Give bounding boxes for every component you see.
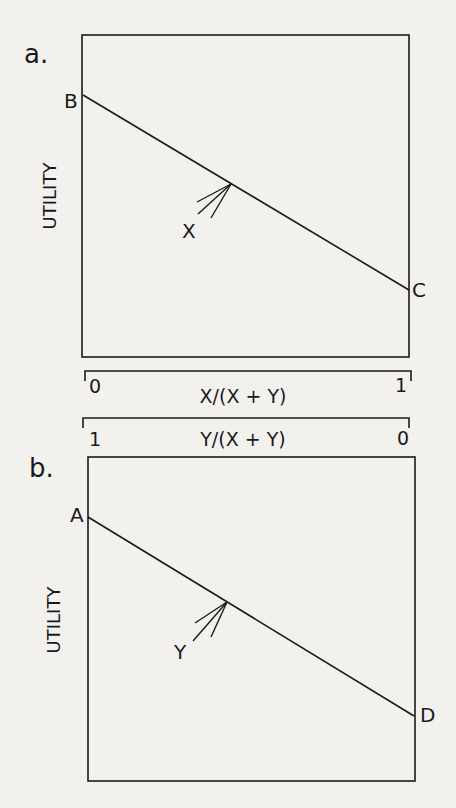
panel-a-frame (82, 35, 409, 357)
panel-a-point-b: B (64, 89, 78, 113)
axis-y-share: 1 0 Y/(X + Y) (83, 418, 409, 450)
panel-a-letter: a. (24, 39, 48, 69)
utility-diagram: a. UTILITY B C X 0 1 X/(X + Y) 1 (0, 0, 456, 808)
panel-b-point-a: A (70, 503, 84, 527)
panel-a-ylabel: UTILITY (39, 162, 60, 230)
axis-y-share-bracket (83, 418, 409, 428)
panel-b-arrow-label: Y (173, 640, 187, 664)
panel-b-letter: b. (29, 453, 54, 483)
panel-a-arrow-label: X (182, 219, 196, 243)
axis-x-share-bracket (85, 371, 411, 381)
panel-b: b. UTILITY A D Y (29, 453, 435, 781)
axis-x-share-label: X/(X + Y) (200, 385, 287, 407)
axis-y-share-left-tick: 1 (89, 428, 101, 450)
panel-a-point-c: C (412, 278, 426, 302)
panel-a-arrow-icon (197, 184, 231, 218)
panel-b-frame (88, 457, 415, 781)
panel-b-utility-line (88, 517, 414, 716)
axis-y-share-label: Y/(X + Y) (199, 428, 285, 450)
panel-b-point-d: D (420, 703, 435, 727)
axis-x-share-left-tick: 0 (89, 375, 101, 397)
panel-b-arrow-icon (193, 602, 227, 641)
panel-b-ylabel: UTILITY (43, 586, 64, 654)
axis-x-share-right-tick: 1 (395, 374, 407, 396)
axis-y-share-right-tick: 0 (397, 427, 409, 449)
figure-canvas: a. UTILITY B C X 0 1 X/(X + Y) 1 (0, 0, 456, 808)
panel-a-utility-line (83, 95, 409, 290)
axis-x-share: 0 1 X/(X + Y) (85, 371, 411, 407)
panel-a: a. UTILITY B C X (24, 35, 426, 357)
